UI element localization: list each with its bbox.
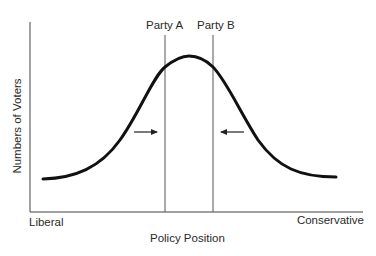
- x-axis-left-label: Liberal: [29, 217, 64, 229]
- y-axis-title: Numbers of Voters: [12, 78, 24, 173]
- x-axis-right-label: Conservative: [297, 215, 364, 227]
- voter-distribution-curve: [43, 56, 336, 179]
- x-axis-title: Policy Position: [150, 233, 225, 245]
- party-a-label: Party A: [146, 20, 183, 32]
- party-b-label: Party B: [197, 20, 235, 32]
